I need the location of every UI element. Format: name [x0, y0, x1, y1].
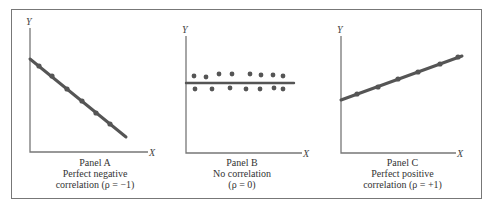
- panel-a-caption: Panel A Perfect negative correlation (ρ …: [40, 157, 150, 190]
- panel-b-chart: Y X: [182, 24, 310, 159]
- panel-a-rho: correlation (ρ = −1): [40, 179, 150, 190]
- data-point: [93, 110, 98, 115]
- panel-b-desc: No correlation: [187, 168, 297, 179]
- panel-a-y-label: Y: [26, 16, 33, 27]
- panel-b-caption: Panel B No correlation (ρ = 0): [187, 157, 297, 190]
- panel-b-y-label: Y: [182, 24, 189, 35]
- panel-b-axes: [186, 36, 302, 153]
- panel-c-desc: Perfect positive: [345, 168, 460, 179]
- panel-a-desc: Perfect negative: [40, 168, 150, 179]
- data-point: [64, 86, 69, 91]
- panel-a-title: Panel A: [40, 157, 150, 168]
- panel-b-title: Panel B: [187, 157, 297, 168]
- panel-a-chart: Y X: [26, 16, 156, 158]
- panel-b-x-label: X: [302, 148, 310, 159]
- data-point: [107, 121, 112, 126]
- panel-c-y-label: Y: [337, 24, 344, 35]
- data-point: [36, 63, 41, 68]
- panel-a-axes: [30, 28, 148, 152]
- panel-c-title: Panel C: [345, 157, 460, 168]
- panel-c-rho: correlation (ρ = +1): [345, 179, 460, 190]
- panel-b-rho: (ρ = 0): [187, 179, 297, 190]
- panel-c-chart: Y X: [337, 24, 464, 159]
- data-point: [79, 98, 84, 103]
- data-point: [49, 73, 54, 78]
- panel-c-caption: Panel C Perfect positive correlation (ρ …: [345, 157, 460, 190]
